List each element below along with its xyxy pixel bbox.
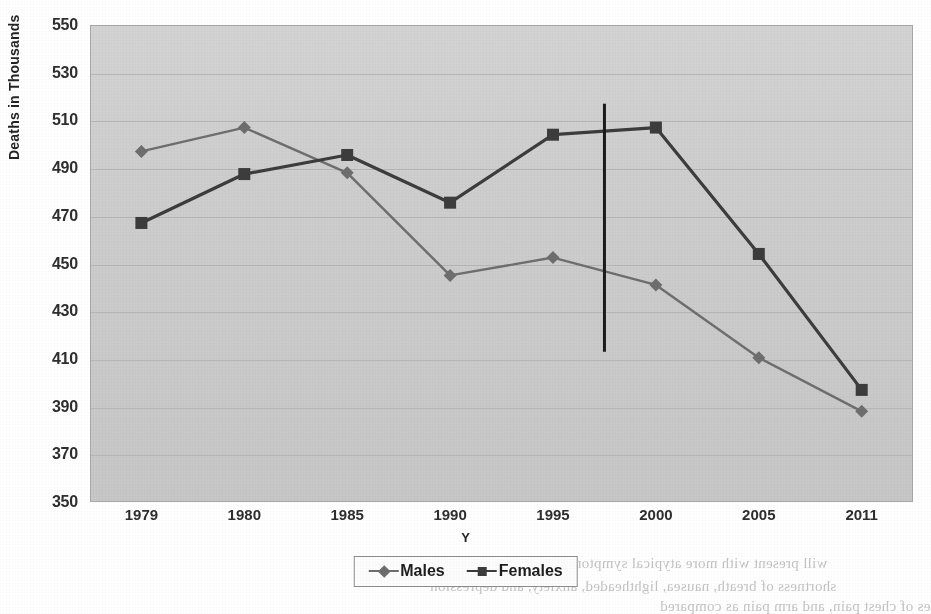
line-chart-figure: 550 530 510 490 470 450 430 410 390 370 … <box>0 0 931 614</box>
x-tick-label: 2000 <box>639 506 672 523</box>
data-point-males-1995 <box>547 251 560 264</box>
square-marker-icon <box>467 564 497 578</box>
data-point-females-2005 <box>753 248 765 260</box>
x-tick-label: 1985 <box>331 506 364 523</box>
legend-label-females: Females <box>499 562 563 580</box>
x-tick-label: 1990 <box>433 506 466 523</box>
chart-legend[interactable]: Males Females <box>353 556 578 587</box>
data-point-females-1980 <box>238 168 250 180</box>
data-point-females-1995 <box>547 129 559 141</box>
legend-item-males[interactable]: Males <box>368 562 444 580</box>
data-point-females-2000 <box>650 122 662 134</box>
x-tick-label: 2005 <box>742 506 775 523</box>
x-tick-label: 2011 <box>845 506 878 523</box>
x-tick-label: 1995 <box>536 506 569 523</box>
data-point-females-1985 <box>341 149 353 161</box>
data-point-females-2011 <box>856 384 868 396</box>
data-point-males-1979 <box>135 145 148 158</box>
legend-item-females[interactable]: Females <box>467 562 563 580</box>
x-tick-label: 1979 <box>125 506 158 523</box>
data-point-females-1979 <box>135 217 147 229</box>
data-point-males-1980 <box>238 121 251 134</box>
x-axis-title: Y <box>0 530 931 545</box>
diamond-marker-icon <box>368 564 398 578</box>
x-axis: 1979 1980 1985 1990 1995 2000 2005 2011 <box>90 506 913 532</box>
data-point-males-2011 <box>855 405 868 418</box>
data-point-females-1990 <box>444 197 456 209</box>
x-tick-label: 1980 <box>228 506 261 523</box>
legend-label-males: Males <box>400 562 444 580</box>
